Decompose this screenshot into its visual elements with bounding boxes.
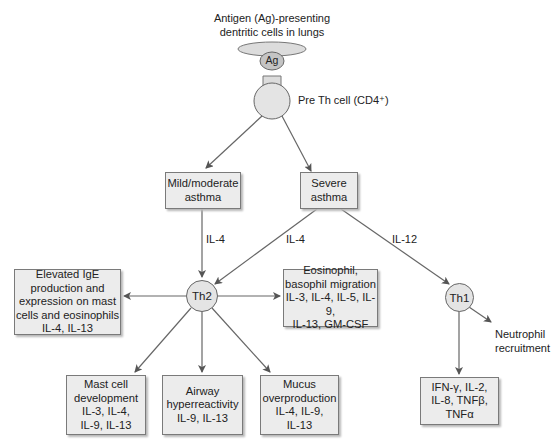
th1-cytokines-box: IFN-γ, IL-2, IL-8, TNFβ, TNFα (420, 377, 499, 425)
th1-cell: Th1 (445, 283, 474, 312)
antigen-label: Ag (262, 54, 282, 68)
pre-th-cell-label: Pre Th cell (CD4⁺) (298, 94, 389, 108)
mild-moderate-asthma-box: Mild/moderate asthma (165, 172, 241, 209)
il12-label: IL-12 (392, 233, 417, 247)
il4-label-severe: IL-4 (286, 233, 305, 247)
severe-asthma-box: Severe asthma (300, 172, 358, 209)
mast-cell-development-box: Mast cell development IL-3, IL-4, IL-9, … (66, 375, 146, 435)
th2-cell: Th2 (186, 280, 218, 312)
mucus-overproduction-box: Mucus overproduction IL-4, IL-9, IL-13 (260, 375, 339, 435)
pre-th-cell-shape (254, 83, 290, 119)
airway-hyperreactivity-box: Airway hyperreactivity IL-9, IL-13 (162, 375, 243, 435)
elevated-ige-box: Elevated IgE production and expression o… (14, 269, 121, 335)
eosinophil-migration-box: Eosinophil, basophil migration IL-3, IL-… (283, 269, 378, 327)
neutrophil-recruitment-label: Neutrophil recruitment (495, 328, 550, 355)
il4-label-mild: IL-4 (206, 233, 225, 247)
dendritic-cells-title: Antigen (Ag)-presenting dentritic cells … (200, 12, 344, 39)
